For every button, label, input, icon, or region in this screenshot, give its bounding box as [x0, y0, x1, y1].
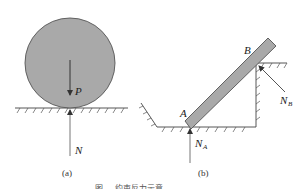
panel-label-b: (b) — [198, 168, 209, 178]
panel-b: A B N A N B (b) — [139, 38, 293, 178]
force-subscript-nb: B — [288, 100, 293, 108]
panel-a: P N (a) — [15, 18, 128, 178]
force-label-na: N — [194, 137, 203, 149]
panel-label-a: (a) — [62, 168, 72, 178]
force-subscript-na: A — [202, 143, 208, 151]
force-label-n: N — [74, 144, 83, 156]
force-arrow-nb — [259, 66, 285, 92]
force-label-p: P — [74, 85, 82, 97]
floor-b — [157, 127, 256, 132]
figure-caption: 图 … 约束反力示意 — [95, 183, 163, 189]
mechanics-diagram: P N (a) — [0, 0, 297, 189]
force-label-nb: N — [279, 94, 288, 106]
point-label-a: A — [179, 107, 187, 119]
bar-ab — [185, 38, 276, 129]
ground-surface-a — [15, 108, 128, 113]
point-label-b: B — [244, 44, 251, 56]
slanted-wall — [139, 103, 157, 127]
